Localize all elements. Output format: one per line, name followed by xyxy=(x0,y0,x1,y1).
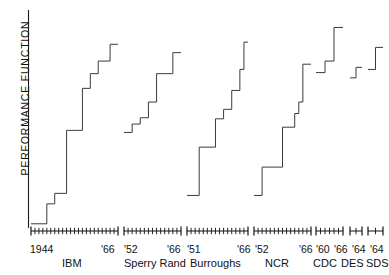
year-label-sperry-start: '52 xyxy=(124,243,138,255)
step-chart-plot xyxy=(0,0,389,275)
year-label-des-start: '64 xyxy=(352,243,366,255)
group-label-sperry-rand: Sperry Rand xyxy=(124,257,186,269)
year-label-ibm-end: '66 xyxy=(101,243,115,255)
year-label-ncr-end: '66 xyxy=(299,243,313,255)
group-label-sds: SDS xyxy=(366,257,389,269)
step-series-burroughs xyxy=(187,42,248,195)
step-series-sperry-rand xyxy=(124,53,181,133)
year-label-ncr-start: '52 xyxy=(255,243,269,255)
step-series-ncr xyxy=(254,64,311,195)
step-series-cdc xyxy=(316,27,343,72)
group-label-des: DES xyxy=(341,257,364,269)
group-label-ibm: IBM xyxy=(62,257,82,269)
group-label-burroughs: Burroughs xyxy=(190,257,241,269)
year-label-ibm-start: 1944 xyxy=(30,243,53,255)
chart-figure: PERFORMANCE FUNCTION 1944 '66 '52 '66 '5… xyxy=(0,0,389,275)
year-label-sperry-end: '66 xyxy=(167,243,181,255)
year-label-sds-start: '64 xyxy=(370,243,384,255)
step-series-des xyxy=(350,67,362,78)
group-label-ncr: NCR xyxy=(265,257,289,269)
year-label-cdc-end: '66 xyxy=(334,243,348,255)
year-label-burroughs-start: '51 xyxy=(187,243,201,255)
year-label-burroughs-end: '66 xyxy=(237,243,251,255)
x-axis-ticks-layer xyxy=(31,227,383,236)
year-label-cdc-start: '60 xyxy=(316,243,330,255)
series-layer xyxy=(31,27,383,223)
step-series-sds xyxy=(368,47,383,69)
step-series-ibm xyxy=(31,44,118,224)
group-label-cdc: CDC xyxy=(313,257,337,269)
